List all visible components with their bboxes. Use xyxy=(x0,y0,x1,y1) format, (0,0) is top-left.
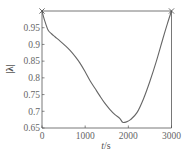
y-tick-label: 0.85 xyxy=(23,56,40,66)
x-tick-label: 0 xyxy=(40,131,45,141)
plot-area xyxy=(39,8,174,122)
y-tick-label: 0.95 xyxy=(23,23,40,33)
axes xyxy=(42,11,172,128)
x-tick-label: 1000 xyxy=(76,131,95,141)
y-axis-ticks: 0.650.70.750.80.850.90.95 xyxy=(23,23,44,133)
data-line xyxy=(42,11,172,123)
y-tick-label: 0.65 xyxy=(23,123,40,133)
y-axis-label: |λ| xyxy=(4,64,15,73)
chart: 0.650.70.750.80.850.90.95 0100020003000 … xyxy=(0,0,191,158)
x-tick-label: 3000 xyxy=(162,131,181,141)
y-tick-label: 0.9 xyxy=(28,40,40,50)
y-tick-label: 0.75 xyxy=(23,90,40,100)
y-tick-label: 0.7 xyxy=(28,107,40,117)
y-tick-label: 0.8 xyxy=(28,73,40,83)
x-tick-label: 2000 xyxy=(119,131,138,141)
x-axis-label: t/s xyxy=(101,140,111,151)
